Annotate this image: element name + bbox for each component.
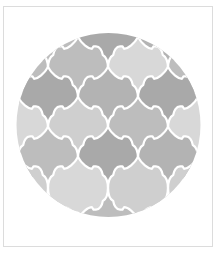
tile-pattern-swatch — [0, 0, 221, 254]
lantern-tile — [78, 0, 138, 9]
lantern-tile — [48, 0, 108, 39]
lantern-tile — [0, 127, 18, 189]
tile-grid — [0, 0, 221, 254]
lantern-tile — [198, 7, 221, 69]
lantern-tile — [138, 0, 198, 9]
lantern-tile — [108, 157, 168, 219]
lantern-tile — [0, 7, 18, 69]
lantern-tile — [168, 0, 221, 39]
lantern-tile — [18, 0, 78, 9]
lantern-tile — [198, 127, 221, 189]
lantern-tile — [198, 67, 221, 129]
lantern-tile — [0, 0, 48, 39]
lantern-tile — [48, 157, 108, 219]
lantern-tile — [0, 67, 18, 129]
lantern-tile — [108, 0, 168, 39]
